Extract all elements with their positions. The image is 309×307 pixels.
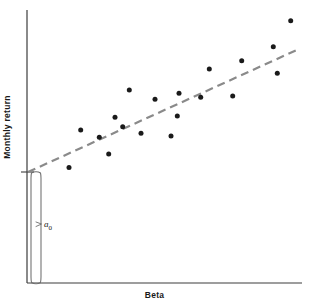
scatter-point-group [67,18,294,170]
scatter-point [106,152,111,157]
scatter-point [275,71,280,76]
scatter-point [239,58,244,63]
y-axis-label: Monthly return [0,88,14,166]
intercept-bracket-icon [31,172,41,284]
scatter-point [169,134,174,139]
scatter-point [78,128,83,133]
scatter-point [207,67,212,72]
intercept-subscript: 0 [49,224,53,232]
scatter-point [198,95,203,100]
scatter-point [153,97,158,102]
scatter-point [288,18,293,23]
scatter-point [120,124,125,129]
x-axis-label: Beta [0,290,309,300]
scatter-point [177,91,182,96]
scatter-point [97,135,102,140]
intercept-label: a0 [44,219,52,232]
x-axis-label-text: Beta [145,290,165,300]
scatter-point [139,131,144,136]
regression-trendline [28,49,299,172]
y-axis-label-text: Monthly return [2,95,12,159]
scatter-point [127,88,132,93]
scatter-point [230,94,235,99]
scatter-point [67,165,72,170]
plot-canvas [0,0,309,307]
scatter-point [271,44,276,49]
scatter-point [113,115,118,120]
scatter-plot-figure: Monthly return Beta a0 [0,0,309,307]
scatter-point [175,114,180,119]
